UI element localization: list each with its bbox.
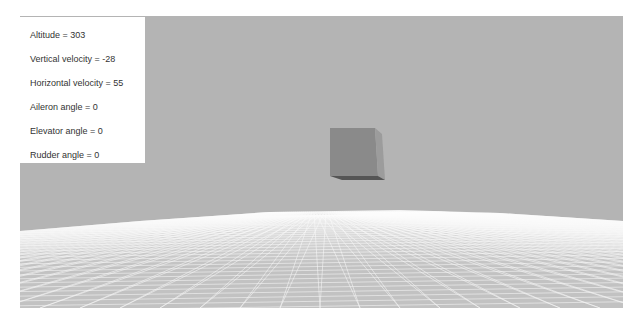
vertical-velocity-readout: Vertical velocity = -28 (30, 54, 115, 64)
altitude-readout: Altitude = 303 (30, 30, 85, 40)
horizontal-velocity-readout: Horizontal velocity = 55 (30, 78, 123, 88)
cube (330, 128, 385, 180)
flight-sim-viewport[interactable]: Altitude = 303 Vertical velocity = -28 H… (20, 16, 623, 308)
rudder-angle-readout: Rudder angle = 0 (30, 150, 99, 160)
cube-front-face (330, 128, 378, 176)
elevator-angle-readout: Elevator angle = 0 (30, 126, 103, 136)
aileron-angle-readout: Aileron angle = 0 (30, 102, 98, 112)
telemetry-panel: Altitude = 303 Vertical velocity = -28 H… (20, 17, 145, 163)
